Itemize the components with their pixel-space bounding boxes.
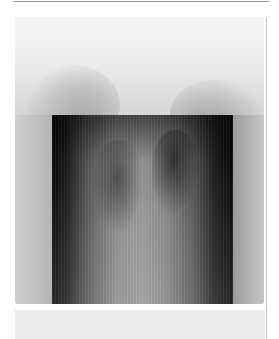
left-arm-region [15, 115, 52, 304]
collimated-chest-field [52, 115, 233, 304]
right-lung-field [152, 130, 200, 215]
top-divider-line [13, 1, 269, 2]
bottom-margin-strip [15, 310, 265, 339]
right-border-line [266, 17, 267, 339]
xray-image [15, 17, 264, 304]
left-lung-field [92, 140, 142, 235]
right-arm-region [233, 115, 264, 304]
